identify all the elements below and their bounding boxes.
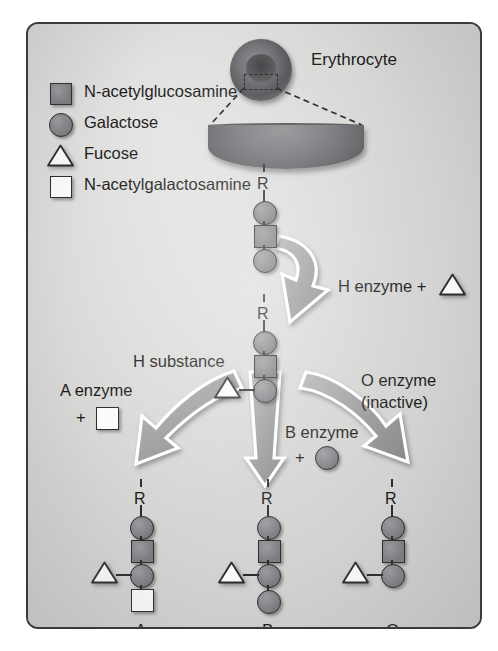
diagram-panel: Erythrocyte N-acetylglucosamine Galactos… [26,22,482,629]
panel-vignette [28,24,480,627]
